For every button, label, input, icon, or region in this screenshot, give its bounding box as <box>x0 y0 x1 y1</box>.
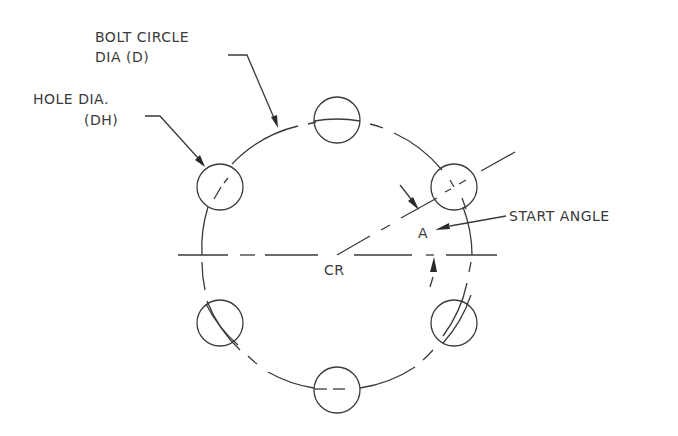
hole-dia-label-line1: HOLE DIA. <box>33 91 109 107</box>
hole-dia-label-line2: (DH) <box>84 112 118 128</box>
hole-dia-leader <box>145 116 205 167</box>
bolt-circle-label-line2: DIA (D) <box>95 49 149 65</box>
start-angle-leader <box>435 216 506 230</box>
hole-lower-right <box>431 300 477 346</box>
angle-symbol-label: A <box>418 225 428 241</box>
start-angle-label: START ANGLE <box>509 208 610 224</box>
center-label: CR <box>324 262 345 278</box>
hole-upper-left <box>197 164 243 210</box>
hole-bottom <box>314 367 360 413</box>
hole-lower-left <box>197 300 243 346</box>
bolt-circle-leader <box>228 55 278 128</box>
bolt-circle-diagram: BOLT CIRCLE DIA (D) HOLE DIA. (DH) START… <box>0 0 678 436</box>
bolt-circle-label-line1: BOLT CIRCLE <box>95 29 189 45</box>
